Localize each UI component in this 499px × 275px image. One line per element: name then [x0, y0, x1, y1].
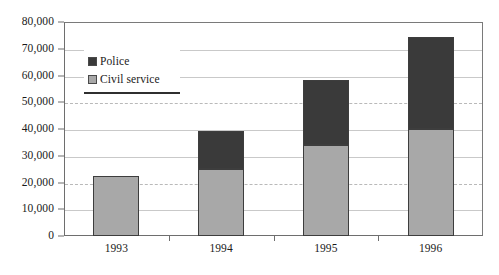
y-axis-tick-label: 0 — [48, 230, 54, 242]
legend-label-police: Police — [100, 56, 129, 68]
stacked-bar-chart: 010,00020,00030,00040,00050,00060,00070,… — [0, 0, 499, 275]
y-axis-tick-label: 40,000 — [22, 123, 54, 135]
x-axis-tick — [169, 236, 170, 241]
y-axis: 010,00020,00030,00040,00050,00060,00070,… — [0, 0, 64, 275]
y-axis-tick-label: 60,000 — [22, 70, 54, 82]
y-axis-tick-label: 20,000 — [22, 177, 54, 189]
bar-group — [198, 22, 244, 236]
legend-entry-police: Police — [88, 53, 129, 70]
x-axis-tick — [378, 236, 379, 241]
bar-segment-civil-service — [198, 169, 244, 236]
legend-swatch-civil-service — [88, 75, 97, 84]
y-axis-tick-label: 30,000 — [22, 150, 54, 162]
x-axis-tick-label: 1995 — [314, 243, 337, 255]
x-axis-tick-label: 1993 — [105, 243, 128, 255]
legend-swatch-police — [88, 57, 97, 66]
legend-label-civil-service: Civil service — [100, 74, 160, 86]
y-axis-tick-label: 50,000 — [22, 97, 54, 109]
x-axis-tick — [274, 236, 275, 241]
x-axis-tick-label: 1994 — [209, 243, 232, 255]
y-axis-tick-label: 70,000 — [22, 43, 54, 55]
bar-segment-civil-service — [303, 145, 349, 236]
bar-segment-police — [198, 131, 244, 169]
legend-entry-civil-service: Civil service — [88, 71, 160, 88]
y-axis-tick-label: 10,000 — [22, 204, 54, 216]
x-axis-tick-label: 1996 — [419, 243, 442, 255]
y-axis-tick-label: 80,000 — [22, 16, 54, 28]
bar-segment-police — [408, 37, 454, 129]
bar-segment-police — [303, 80, 349, 145]
bar-segment-civil-service — [93, 176, 139, 236]
bar-segment-civil-service — [408, 129, 454, 236]
bar-group — [408, 22, 454, 236]
legend: Police Civil service — [84, 50, 180, 92]
bar-group — [303, 22, 349, 236]
x-axis-labels: 1993199419951996 — [64, 243, 483, 267]
